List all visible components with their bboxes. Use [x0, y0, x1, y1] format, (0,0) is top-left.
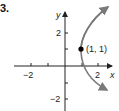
- x-tick-2: 2: [95, 70, 100, 80]
- y-tick-2: 2: [56, 28, 61, 38]
- graph: (1, 1) −2 2 x y 2 −2: [0, 0, 119, 111]
- point-marker: [78, 46, 83, 51]
- x-tick-neg2: −2: [23, 70, 33, 80]
- x-axis-label: x: [109, 70, 115, 80]
- y-tick-neg2: −2: [50, 94, 60, 104]
- point-label: (1, 1): [86, 44, 107, 54]
- y-axis-label: y: [55, 10, 61, 20]
